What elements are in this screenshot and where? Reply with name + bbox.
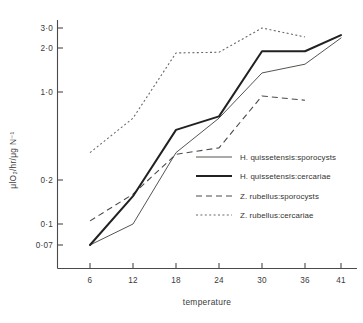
legend-label-z-rubellus-cercariae: Z. rubellus:cercariae bbox=[240, 211, 314, 220]
legend-item-h-quissetensis-sporocysts: H. quissetensis:sporocysts bbox=[196, 153, 336, 162]
legend-label-z-rubellus-sporocysts: Z. rubellus:sporocysts bbox=[240, 192, 319, 201]
y-tick-label-0-1: 0·1 bbox=[41, 220, 54, 229]
y-tick-label-0-2: 0·2 bbox=[41, 176, 54, 185]
x-tick-label-41: 41 bbox=[336, 276, 346, 285]
legend-item-z-rubellus-cercariae: Z. rubellus:cercariae bbox=[196, 211, 314, 220]
x-tick-label-36: 36 bbox=[300, 276, 310, 285]
y-tick-label-1-0: 1·0 bbox=[41, 88, 54, 97]
legend: H. quissetensis:sporocysts H. quissetens… bbox=[196, 153, 336, 220]
legend-label-h-quissetensis-sporocysts: H. quissetensis:sporocysts bbox=[240, 153, 336, 162]
x-axis-title: temperature bbox=[183, 297, 231, 307]
x-tick-label-30: 30 bbox=[257, 276, 267, 285]
y-tick-label-3-0: 3·0 bbox=[41, 24, 54, 33]
x-tick-label-18: 18 bbox=[171, 276, 181, 285]
legend-label-h-quissetensis-cercariae: H. quissetensis:cercariae bbox=[240, 172, 331, 181]
x-tick-label-12: 12 bbox=[128, 276, 138, 285]
y-tick-label-0-07: 0·07 bbox=[36, 241, 53, 250]
series-line-z-rubellus-cercariae bbox=[90, 28, 305, 153]
x-tick-label-24: 24 bbox=[214, 276, 224, 285]
legend-item-h-quissetensis-cercariae: H. quissetensis:cercariae bbox=[196, 172, 331, 181]
oxygen-consumption-line-chart: 3·0 2·0 1·0 0·2 0·1 0·07 μlO₂/hr/μg N⁻¹ … bbox=[0, 0, 363, 323]
y-axis-title: μlO₂/hr/μg N⁻¹ bbox=[8, 131, 18, 188]
x-tick-label-6: 6 bbox=[88, 276, 93, 285]
legend-item-z-rubellus-sporocysts: Z. rubellus:sporocysts bbox=[196, 192, 319, 201]
y-axis-ticks bbox=[58, 28, 64, 245]
x-axis-ticks bbox=[90, 263, 341, 269]
y-tick-label-2-0: 2·0 bbox=[41, 44, 54, 53]
